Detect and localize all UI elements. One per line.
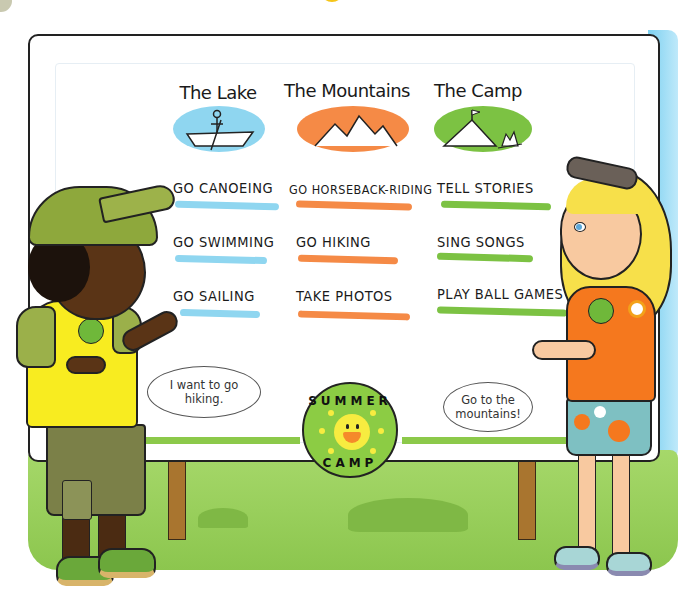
canoe-icon xyxy=(173,106,265,152)
girl-sandal xyxy=(554,546,600,570)
badge-bottom-text: CAMP xyxy=(304,456,396,470)
column-header-camp: The Camp xyxy=(403,80,553,101)
boy-speech-bubble: I want to go hiking. xyxy=(147,366,261,418)
sun-ray xyxy=(370,410,376,416)
mountains-icon xyxy=(297,106,409,152)
sun-mouth xyxy=(343,432,361,443)
boy-speech-text: I want to go hiking. xyxy=(164,378,244,407)
smiling-sun-icon xyxy=(334,414,370,450)
girl-camp-badge xyxy=(588,298,614,324)
girl-speech-text: Go to the mountains! xyxy=(455,393,520,422)
column-header-lake: The Lake xyxy=(143,82,293,103)
girl-leg xyxy=(612,452,630,562)
sign-post-right xyxy=(518,460,536,540)
activity-go-hiking: GO HIKING xyxy=(296,234,371,250)
board-green-stripe-right xyxy=(402,437,567,444)
sun-ray xyxy=(328,410,334,416)
girl-pointing-arm xyxy=(532,340,596,360)
activity-go-canoeing: GO CANOEING xyxy=(173,180,273,196)
corner-decoration xyxy=(0,0,12,12)
sun-ray xyxy=(328,448,334,454)
girl-sleeve-flower xyxy=(628,300,646,318)
sun-ray xyxy=(370,448,376,454)
shorts-flower-pattern xyxy=(608,420,630,442)
badge-top-text: SUMMER xyxy=(304,394,396,408)
activity-tell-stories: TELL STORIES xyxy=(437,180,534,196)
activity-play-ball-games: PLAY BALL GAMES xyxy=(437,286,563,302)
boy-sandal xyxy=(98,548,156,578)
board-green-stripe-left xyxy=(135,437,300,444)
grass-tuft xyxy=(348,498,468,532)
girl-shorts xyxy=(566,398,652,456)
girl-sandal xyxy=(606,552,652,576)
shorts-flower-pattern xyxy=(594,406,606,418)
sun-ray xyxy=(378,428,384,434)
column-header-mountains: The Mountains xyxy=(272,80,422,101)
tent-campfire-icon xyxy=(434,106,532,152)
activity-go-sailing: GO SAILING xyxy=(173,288,255,304)
boy-shorts-pocket xyxy=(62,480,92,520)
activity-sing-songs: SING SONGS xyxy=(437,234,525,250)
activity-go-swimming: GO SWIMMING xyxy=(173,234,274,250)
grass-tuft xyxy=(198,508,248,528)
sun-eye xyxy=(356,424,359,429)
activity-go-horseback-riding: GO HORSEBACK-RIDING xyxy=(289,182,432,197)
sun-ray xyxy=(319,428,325,434)
summer-camp-badge: SUMMER CAMP xyxy=(302,382,398,478)
girl-eye xyxy=(574,222,586,232)
boy-sleeve xyxy=(16,306,56,368)
sun-peek-decoration xyxy=(322,0,342,2)
boy-camp-badge xyxy=(78,318,104,344)
boy-shorts xyxy=(46,424,146,516)
activity-take-photos: TAKE PHOTOS xyxy=(296,288,393,304)
girl-speech-bubble: Go to the mountains! xyxy=(443,382,533,432)
sign-post-left xyxy=(168,460,186,540)
shorts-flower-pattern xyxy=(574,414,590,430)
sun-eye xyxy=(346,424,349,429)
boy-hand xyxy=(66,356,106,374)
